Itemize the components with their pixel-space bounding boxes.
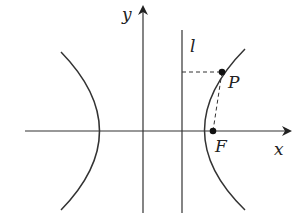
- focus-f-label: F: [214, 136, 228, 156]
- y-axis-label: y: [121, 4, 132, 24]
- dashed-p-to-focus: [213, 72, 222, 131]
- directrix-label: l: [190, 36, 195, 56]
- focus-f: [210, 128, 217, 135]
- point-p: [219, 69, 226, 76]
- x-axis-label: x: [274, 139, 284, 159]
- point-p-label: P: [227, 72, 240, 92]
- hyperbola-diagram: y x l P F: [0, 0, 304, 223]
